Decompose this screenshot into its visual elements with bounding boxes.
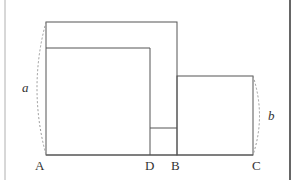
dimension-arc-b <box>253 76 260 155</box>
dimension-arc-a <box>37 22 46 155</box>
geometry-diagram: a b A D B C <box>0 0 292 180</box>
point-label-a: A <box>35 158 45 173</box>
point-label-b: B <box>171 158 180 173</box>
point-label-d: D <box>145 158 154 173</box>
square-b-bc <box>177 76 253 155</box>
dimension-label-a: a <box>22 80 29 95</box>
outer-rectangle-ab <box>46 22 177 155</box>
dimension-label-b: b <box>268 108 275 123</box>
point-label-c: C <box>252 158 261 173</box>
